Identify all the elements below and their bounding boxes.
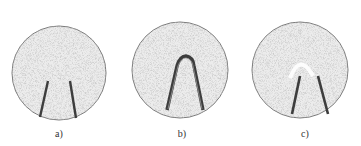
speckle-texture-b: [132, 22, 228, 118]
panel-label-a: a): [44, 128, 74, 139]
panel-label-c: c): [290, 128, 320, 139]
panel-c: [252, 22, 348, 118]
panel-b: [132, 22, 228, 118]
speckle-texture-c: [252, 22, 348, 118]
figure-canvas: [0, 0, 361, 146]
panel-a: [12, 26, 106, 120]
panel-label-b: b): [167, 128, 197, 139]
speckle-texture-a: [12, 26, 106, 120]
